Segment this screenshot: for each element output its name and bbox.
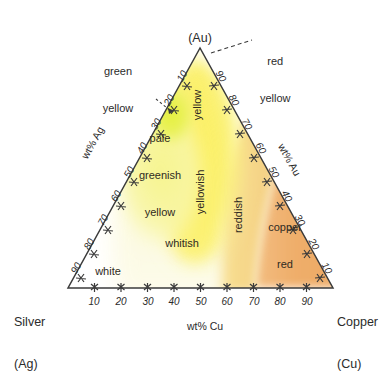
- red-yellow-leader: [211, 40, 252, 53]
- corner-copper-symbol: (Cu): [337, 357, 378, 371]
- corner-silver-symbol: (Ag): [14, 357, 45, 371]
- colour-regions: [68, 48, 340, 300]
- region-green-yellow: [145, 81, 197, 149]
